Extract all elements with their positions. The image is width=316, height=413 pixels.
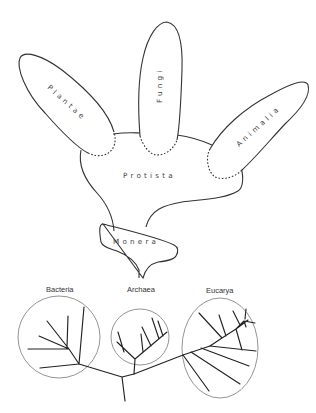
- monera-lobe: [100, 224, 178, 278]
- fungi-label: Fungi: [155, 68, 164, 103]
- tree-trunk: [79, 346, 210, 401]
- monera-label: Monera: [113, 237, 159, 246]
- three-domain-tree: Bacteria Archaea Eucarya: [18, 285, 258, 401]
- kingdom-domain-diagram: Plantae Fungi Animalia Protista Monera B…: [0, 0, 316, 413]
- archaea-label: Archaea: [127, 285, 156, 294]
- five-kingdom-diagram: Plantae Fungi Animalia Protista Monera: [19, 22, 308, 278]
- archaea-branches: [117, 318, 167, 374]
- protista-label: Protista: [123, 171, 176, 180]
- bacteria-label: Bacteria: [46, 285, 74, 294]
- eucarya-branches: [183, 309, 256, 391]
- bacteria-branches: [28, 307, 84, 368]
- eucarya-label: Eucarya: [206, 286, 234, 295]
- eucarya-circle: [182, 298, 258, 398]
